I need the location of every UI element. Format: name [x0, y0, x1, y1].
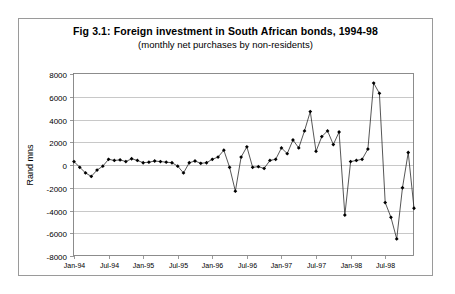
x-tick-label: Jan-97 [271, 262, 293, 269]
data-point-marker [199, 161, 203, 165]
data-point-marker [337, 130, 341, 134]
data-point-marker [187, 161, 191, 165]
gridlines [74, 98, 414, 234]
data-point-marker [130, 157, 134, 161]
data-point-marker [389, 215, 393, 219]
y-tick-label: 0 [63, 162, 68, 171]
data-point-marker [303, 129, 307, 133]
data-point-marker [354, 159, 358, 163]
x-tick-label: Jan-95 [133, 262, 155, 269]
x-axis-tick-labels: Jan-94Jul-94Jan-95Jul-95Jan-96Jul-96Jan-… [64, 262, 395, 269]
data-point-marker [210, 157, 214, 161]
x-tick-label: Jan-94 [64, 262, 86, 269]
data-point-marker [233, 189, 237, 193]
data-point-marker [360, 157, 364, 161]
y-tick-label: 2000 [49, 139, 67, 148]
y-axis-title: Rand mns [25, 144, 35, 186]
data-point-marker [153, 159, 157, 163]
data-point-marker [239, 155, 243, 159]
plot-area: 80006000400020000-2000-4000-6000-8000 Ja… [19, 19, 434, 277]
data-point-marker [193, 159, 197, 163]
data-point-marker [170, 161, 174, 165]
data-point-marker [164, 160, 168, 164]
plot-border [74, 74, 414, 256]
y-tick-label: -4000 [47, 208, 68, 217]
y-tick-label: 6000 [49, 94, 67, 103]
data-point-marker [159, 160, 163, 164]
x-tick-label: Jul-96 [238, 262, 257, 269]
y-tick-label: 8000 [49, 71, 67, 80]
data-point-marker [401, 186, 405, 190]
data-point-marker [245, 145, 249, 149]
data-point-marker [395, 237, 399, 241]
data-point-marker [331, 143, 335, 147]
data-point-marker [366, 147, 370, 151]
x-tick-label: Jul-97 [307, 262, 326, 269]
y-tick-label: -6000 [47, 230, 68, 239]
data-point-marker [135, 159, 139, 163]
x-tick-label: Jan-98 [341, 262, 363, 269]
data-point-marker [378, 91, 382, 95]
data-point-marker [343, 213, 347, 217]
data-point-marker [308, 110, 312, 114]
y-tick-label: 4000 [49, 117, 67, 126]
x-tick-label: Jul-95 [169, 262, 188, 269]
y-axis-tick-labels: 80006000400020000-2000-4000-6000-8000 [47, 71, 68, 262]
data-point-marker [372, 81, 376, 85]
data-point-marker [251, 165, 255, 169]
data-point-marker [383, 201, 387, 205]
data-point-marker [314, 149, 318, 153]
data-point-marker [205, 161, 209, 165]
x-tick-label: Jan-96 [202, 262, 224, 269]
data-point-marker [349, 160, 353, 164]
data-point-marker [124, 160, 128, 164]
data-point-marker [412, 206, 416, 210]
data-point-marker [141, 161, 145, 165]
data-point-marker [406, 151, 410, 155]
line-chart: 80006000400020000-2000-4000-6000-8000 Ja… [19, 19, 434, 277]
data-point-marker [112, 159, 116, 163]
x-tick-label: Jul-98 [376, 262, 395, 269]
figure-frame: Fig 3.1: Foreign investment in South Afr… [18, 18, 433, 276]
y-tick-label: -8000 [47, 253, 68, 262]
y-tick-label: -2000 [47, 185, 68, 194]
x-tick-label: Jul-94 [100, 262, 119, 269]
data-point-marker [118, 158, 122, 162]
data-point-marker [228, 165, 232, 169]
data-point-marker [147, 160, 151, 164]
x-tick-marks [75, 256, 386, 259]
data-point-marker [274, 157, 278, 161]
